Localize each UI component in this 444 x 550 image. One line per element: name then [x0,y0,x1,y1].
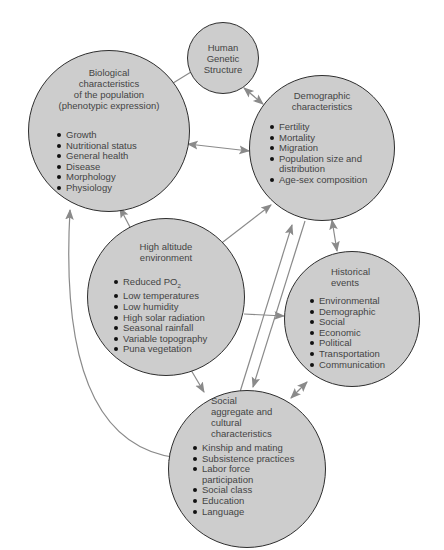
title-line: High altitude [88,241,244,252]
node-demographic-characteristics: Demographic characteristics Fertility Mo… [249,75,395,221]
item-label: Variable topography [123,333,207,344]
item-label: distribution [279,163,325,174]
item-label: Mortality [279,132,315,143]
node-title: Human Genetic Structure [188,42,258,75]
bullet-icon [57,144,61,148]
title-line: cultural [211,417,272,428]
title-line: Historical [331,266,370,277]
bullet-icon [270,146,274,150]
bullet-icon [114,337,118,341]
bullet-icon [310,331,314,335]
node-title: Historical events [331,266,370,288]
node-title: Social aggregate and cultural characteri… [211,395,272,439]
bullet-icon [310,310,314,314]
bullet-icon [270,178,274,182]
bullet-icon [193,499,197,503]
bullet-icon [310,299,314,303]
item-label: General health [66,150,128,161]
bullet-icon [270,125,274,129]
node-item-list: Growth Nutritional status General health… [57,130,137,194]
title-line: of the population [29,89,189,100]
item-label: Low temperatures [123,290,199,301]
item-label: Education [202,495,244,506]
title-line: events [331,277,370,288]
node-title: High altitude environment [88,241,244,263]
title-line: Structure [188,64,258,75]
diagram: Human Genetic Structure Biological chara… [0,0,444,550]
bullet-icon [310,320,314,324]
bullet-icon [57,154,61,158]
bullet-icon [114,305,118,309]
edge-demographic-historical [332,220,337,251]
node-item-list: Environmental Demographic Social Economi… [310,296,385,370]
title-line: Demographic [250,90,394,101]
item-label: Economic [319,327,361,338]
item-label: Physiology [66,182,112,193]
item-label: Political [319,337,352,348]
list-item: Age-sex composition [270,175,367,186]
item-label: Demographic [319,306,376,317]
node-title: Biological characteristics of the popula… [29,67,189,111]
node-high-altitude-environment: High altitude environment Reduced PO2 Lo… [87,218,245,376]
item-label: Nutritional status [66,140,137,151]
node-item-list: Fertility Mortality Migration Population… [270,122,367,186]
bullet-icon [57,186,61,190]
title-line: Human [188,42,258,53]
item-label: Environmental [319,295,380,306]
item-label: Growth [66,129,97,140]
title-line: (phenotypic expression) [29,100,189,111]
bullet-icon [114,316,118,320]
item-label: Reduced PO [123,276,177,287]
bullet-icon [57,133,61,137]
bullet-icon [270,136,274,140]
title-line: environment [88,252,244,263]
item-label: Age-sex composition [279,174,367,185]
edge-biological-demographic [188,144,249,151]
title-line: aggregate and [211,406,272,417]
title-line: Biological [29,67,189,78]
item-label: Labor force [202,463,250,474]
node-biological-characteristics: Biological characteristics of the popula… [28,50,190,212]
bullet-icon [114,294,118,298]
item-label: Puna vegetation [123,343,192,354]
node-historical-events: Historical events Environmental Demograp… [284,251,420,387]
list-item: Reduced PO2 [114,277,207,291]
item-label: Transportation [319,348,380,359]
bullet-icon [270,157,274,161]
bullet-icon [193,457,197,461]
list-item: Communication [310,360,385,371]
item-label: Population size and [279,153,362,164]
item-label: Language [202,506,244,517]
bullet-icon [193,467,197,471]
bullet-icon [114,326,118,330]
item-label: Migration [279,142,318,153]
edge-highalt-to-social [191,370,204,392]
bullet-icon [57,165,61,169]
bullet-icon [193,510,197,514]
bullet-icon [310,352,314,356]
node-social-aggregate-cultural: Social aggregate and cultural characteri… [168,390,326,548]
list-item: Physiology [57,183,137,194]
title-line: characteristics [29,78,189,89]
item-label: Social class [202,484,252,495]
item-label: Kinship and mating [202,442,283,453]
bullet-icon [310,341,314,345]
node-title: Demographic characteristics [250,90,394,112]
item-label: Communication [319,359,385,370]
bullet-icon [57,175,61,179]
title-line: Social [211,395,272,406]
item-label: Subsistence practices [202,453,294,464]
title-line: Genetic [188,53,258,64]
bullet-icon [193,488,197,492]
node-human-genetic-structure: Human Genetic Structure [187,22,259,94]
bullet-icon [114,280,118,284]
item-label: Low humidity [123,301,178,312]
item-label: Fertility [279,121,310,132]
title-line: characteristics [211,428,272,439]
title-line: characteristics [250,101,394,112]
item-label: participation [202,474,253,485]
edge-historical-social [291,382,307,398]
node-item-list: Reduced PO2 Low temperatures Low humidit… [114,277,207,355]
list-item: Puna vegetation [114,344,207,355]
subscript: 2 [177,283,180,289]
